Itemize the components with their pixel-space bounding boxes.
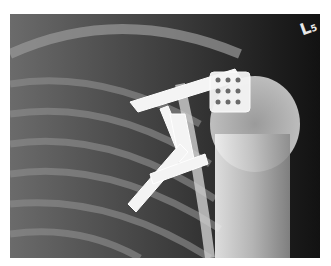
xray-image: L5 xyxy=(10,14,320,258)
xray-illustration xyxy=(10,14,320,258)
